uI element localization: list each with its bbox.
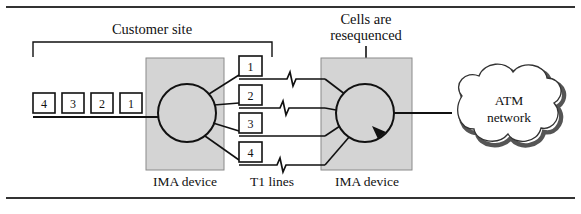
figure-container: Customer site Cells are resequenced 4 3 … — [0, 0, 581, 214]
customer-site-bracket — [33, 42, 272, 57]
input-cell-label: 1 — [128, 97, 134, 111]
input-cell-label: 4 — [41, 97, 47, 111]
left-ima-circle — [158, 84, 216, 142]
atm-cloud-label-line-2: network — [487, 110, 531, 125]
input-cell-sequence: 4 3 2 1 — [33, 93, 142, 113]
t1-line-boxes: 1 2 3 4 — [239, 56, 262, 162]
t1-line-label: 2 — [248, 89, 254, 103]
annotation-line-2: resequenced — [330, 27, 402, 43]
caption-t1-lines: T1 lines — [250, 174, 294, 189]
ima-diagram: Customer site Cells are resequenced 4 3 … — [0, 0, 581, 214]
t1-line-label: 1 — [248, 60, 254, 74]
t1-line-label: 3 — [248, 117, 254, 131]
annotation-line-1: Cells are — [340, 11, 391, 27]
t1-line-label: 4 — [248, 146, 254, 160]
input-cell-label: 3 — [70, 97, 76, 111]
right-ima-circle — [336, 84, 394, 142]
input-cell-label: 2 — [99, 97, 105, 111]
caption-right-ima-device: IMA device — [335, 174, 399, 189]
atm-cloud-label-line-1: ATM — [495, 93, 524, 108]
caption-left-ima-device: IMA device — [153, 174, 217, 189]
customer-site-label: Customer site — [112, 21, 192, 37]
